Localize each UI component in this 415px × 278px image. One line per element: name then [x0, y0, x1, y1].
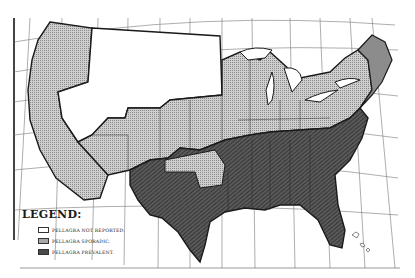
legend-label: PELLAGRA PREVALENT. — [52, 250, 114, 255]
legend-label: PELLAGRA NOT REPORTED. — [52, 228, 125, 233]
legend: LEGEND: PELLAGRA NOT REPORTED. PELLAGRA … — [22, 208, 132, 259]
legend-label: PELLAGRA SPORADIC. — [52, 239, 110, 244]
legend-item-sporadic: PELLAGRA SPORADIC. — [38, 237, 132, 245]
pellagra-map: LEGEND: PELLAGRA NOT REPORTED. PELLAGRA … — [0, 0, 415, 278]
legend-item-not-reported: PELLAGRA NOT REPORTED. — [38, 226, 132, 234]
legend-swatch-prevalent — [38, 249, 49, 255]
legend-title: LEGEND: — [22, 208, 132, 221]
legend-swatch-sporadic — [38, 238, 49, 244]
legend-swatch-not-reported — [38, 227, 49, 233]
legend-item-prevalent: PELLAGRA PREVALENT. — [38, 248, 132, 256]
